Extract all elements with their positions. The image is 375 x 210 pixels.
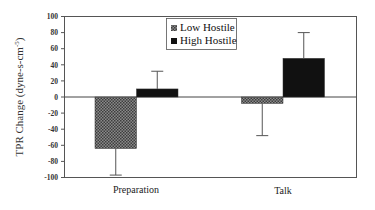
bars-group [95, 33, 325, 175]
bar-high-hostile-preparation [137, 89, 179, 97]
y-tick-label: 0 [54, 93, 58, 102]
y-tick-label: -40 [48, 125, 58, 134]
bar-low-hostile-preparation [95, 97, 137, 149]
chart: 100806040200-20-40-60-80-100 TPR Change … [0, 0, 375, 210]
y-tick-label: 40 [51, 61, 59, 70]
y-tick-label: -60 [48, 141, 58, 150]
legend-swatch-low-hostile [171, 25, 177, 31]
legend: Low Hostile High Hostile [167, 19, 237, 50]
bar-low-hostile-talk [242, 97, 284, 103]
y-tick-label: -20 [48, 109, 58, 118]
y-tick-label: 100 [47, 12, 59, 21]
legend-label-low-hostile: Low Hostile [180, 21, 235, 33]
y-axis-label: TPR Change (dyne-s-cm-5) [13, 37, 26, 156]
x-category-label-talk: Talk [274, 185, 292, 196]
y-axis-ticks: 100806040200-20-40-60-80-100 [44, 12, 64, 182]
x-category-label-preparation: Preparation [113, 184, 159, 195]
legend-swatch-high-hostile [171, 38, 177, 44]
legend-label-high-hostile: High Hostile [180, 34, 237, 46]
bar-high-hostile-talk [283, 58, 325, 97]
y-tick-label: -80 [48, 157, 58, 166]
y-tick-label: 80 [51, 28, 59, 37]
y-tick-label: 20 [51, 77, 59, 86]
y-tick-label: 60 [51, 44, 59, 53]
y-tick-label: -100 [44, 173, 58, 182]
